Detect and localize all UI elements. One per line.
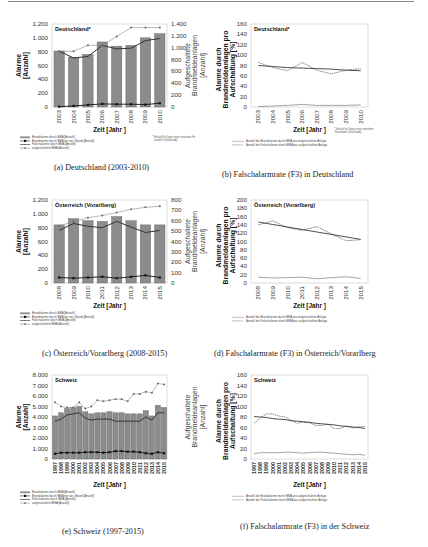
- chart-a-point: [116, 35, 118, 37]
- chart-a-point: [116, 103, 118, 105]
- chart-a-ylabel-line: Alarme: [15, 54, 22, 77]
- chart-c-legend-label: aufgeschaltete BMA [Anzahl]: [32, 322, 69, 326]
- chart-a-point: [130, 103, 132, 105]
- chart-f-xtick-label: 1999: [263, 462, 269, 474]
- chart-d-xtick-label: 2015: [357, 285, 364, 299]
- chart-e-ytick-label: 2.000: [33, 434, 49, 441]
- chart-a-point: [101, 103, 103, 105]
- chart-b-xtick-label: 2004: [269, 109, 276, 123]
- chart-a-xtick-label: 2005: [84, 109, 91, 123]
- chart-a-xtick-label: 2009: [141, 109, 148, 123]
- chart-f-ytick-label: 0: [244, 455, 248, 462]
- chart-c-xtick-label: 2010: [84, 285, 91, 299]
- chart-e-point: [60, 406, 62, 408]
- chart-e-point: [139, 451, 141, 453]
- chart-e-point: [133, 451, 135, 453]
- chart-a-bar: [83, 54, 93, 107]
- chart-c-legend-marker: [24, 316, 26, 318]
- chart-a-xtick-label: 2004: [70, 109, 77, 123]
- chart-e-ytick-label: 3.000: [33, 424, 49, 431]
- chart-e-point: [151, 392, 153, 394]
- chart-c-xtick-label: 2012: [113, 285, 120, 299]
- chart-b-ytick-label: 80: [240, 62, 247, 69]
- chart-a-point: [101, 44, 103, 46]
- chart-a-point: [159, 27, 161, 29]
- chart-b-xtick-label: 2010: [357, 109, 364, 123]
- chart-c-legend-swatch: [20, 312, 30, 314]
- chart-c-point: [87, 217, 89, 219]
- chart-f-xtick-label: 1997: [251, 462, 257, 474]
- chart-c-ytick-right-label: 500: [171, 227, 182, 234]
- chart-e-bar: [71, 408, 76, 459]
- chart-a-point: [144, 27, 146, 29]
- chart-c-ytick-label: 1.000: [33, 210, 49, 217]
- chart-c-point: [73, 221, 75, 223]
- chart-f-ytick-label: 160: [237, 371, 248, 378]
- chart-a-legend-swatch: [20, 136, 30, 138]
- chart-a-legend-label: aufgeschaltete BMA [Anzahl]: [32, 146, 69, 150]
- chart-a-point: [159, 102, 161, 104]
- chart-e-point: [145, 391, 147, 393]
- chart-d-plot-area: [251, 200, 368, 283]
- chart-c-point: [144, 206, 146, 208]
- chart-e-plot-title: Schweiz: [55, 377, 77, 383]
- chart-c-point: [58, 276, 60, 278]
- chart-a-point: [58, 50, 60, 52]
- chart-c-ytick-right-label: 600: [171, 217, 182, 224]
- chart-a-point: [58, 106, 60, 108]
- chart-f-ytick-label: 100: [237, 403, 248, 410]
- chart-c-point: [116, 277, 118, 279]
- chart-f-xtick-label: 2005: [300, 462, 306, 474]
- chart-c-ylabel-right-line: [Anzahl]: [199, 229, 207, 254]
- chart-a-ytick-label: 200: [38, 89, 49, 96]
- chart-b-xtick-label: 2005: [284, 109, 291, 123]
- chart-f-ylabel: Alarme durchBrandmeldeanlagen proAufscha…: [215, 382, 237, 460]
- chart-a-bar: [97, 42, 107, 107]
- chart-a-ytick-right-label: 600: [171, 67, 182, 74]
- chart-d-xlabel: Zeit [Jahr ]: [293, 302, 326, 310]
- chart-c-ytick-right-label: 0: [171, 279, 175, 286]
- chart-a-ylabel-right-line: [Anzahl]: [199, 53, 207, 78]
- chart-c-bar: [83, 221, 93, 283]
- chart-d-ytick-label: 60: [240, 254, 247, 261]
- caption-d: (d) Falschalarmrate (F3) in Österreich/V…: [214, 349, 376, 358]
- chart-c-ytick-right-label: 200: [171, 258, 182, 265]
- chart-e-point: [102, 452, 104, 454]
- chart-f-xlabel: Zeit [Jahr ]: [293, 481, 326, 489]
- chart-e-bar: [161, 408, 166, 459]
- chart-b-ytick-label: 140: [237, 30, 248, 37]
- chart-schweiz-falschalarmrate: 0204060801001201401601997199819992000200…: [214, 360, 428, 547]
- chart-a-point: [73, 50, 75, 52]
- chart-c-point: [159, 276, 161, 278]
- chart-d-ytick-label: 160: [237, 213, 248, 220]
- chart-schweiz-alarme: 01.0002.0003.0004.0005.0006.0007.0008.00…: [0, 360, 214, 547]
- chart-a-ytick-right-label: 0: [171, 103, 175, 110]
- chart-b-ytick-label: 160: [237, 20, 248, 27]
- chart-b-footnote: Feuerwehr (Großstadt): [335, 130, 362, 134]
- chart-e-point: [96, 451, 98, 453]
- chart-e-ytick-label: 7.000: [33, 382, 49, 389]
- chart-c-point: [159, 205, 161, 207]
- chart-a-point: [87, 104, 89, 106]
- chart-f-ylabel-line: Aufschaltung [%]: [229, 393, 237, 449]
- chart-e-point: [133, 393, 135, 395]
- chart-deutschland-falschalarmrate: 0204060801001201401602003200420052006200…: [214, 0, 428, 180]
- chart-d-ytick-label: 100: [237, 238, 248, 245]
- chart-e-point: [139, 393, 141, 395]
- chart-f-xtick-label: 2003: [288, 462, 294, 474]
- chart-e-xlabel: Zeit [Jahr ]: [93, 481, 126, 489]
- chart-c-point: [101, 215, 103, 217]
- chart-b-ylabel: Alarme durchBrandmeldeanlagen proAufscha…: [215, 31, 237, 109]
- chart-c-ytick-right-label: 300: [171, 248, 182, 255]
- chart-d-xtick-label: 2008: [254, 285, 261, 299]
- chart-d-ytick-label: 120: [237, 229, 248, 236]
- chart-c-bar: [112, 217, 122, 283]
- chart-e-point: [72, 407, 74, 409]
- chart-d-xtick-label: 2012: [313, 285, 320, 299]
- chart-a-bar: [140, 38, 150, 107]
- chart-e-point: [72, 452, 74, 454]
- chart-f-plot-title: Schweiz: [254, 377, 276, 383]
- chart-c-bar: [155, 225, 165, 283]
- chart-c-ytick-right-label: 400: [171, 238, 182, 245]
- chart-c-ytick-label: 800: [38, 224, 49, 231]
